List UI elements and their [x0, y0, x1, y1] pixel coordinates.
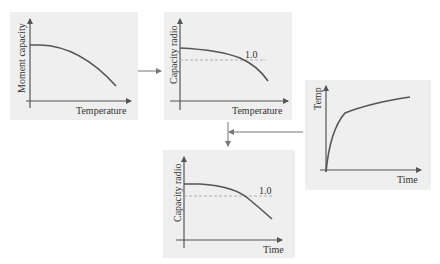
panel4-xlabel: Time: [263, 245, 284, 255]
panel4-reference-label: 1.0: [259, 186, 272, 196]
panel4-axes: [176, 157, 282, 248]
panel3-axes: [320, 86, 421, 172]
panel2-axes: [170, 19, 288, 110]
panel3-ylabel: Temp: [313, 87, 323, 110]
panel1-curve: [30, 45, 116, 86]
panel1-axes: [26, 19, 131, 108]
panel3-xlabel: Time: [397, 175, 418, 185]
panel1-ylabel: Moment capacity: [17, 23, 27, 93]
panel2-xlabel: Temperature: [232, 106, 282, 116]
panel3-curve: [326, 97, 410, 172]
diagram-graphics: [0, 0, 440, 264]
panel2-ylabel: Capacity radio: [169, 25, 179, 84]
panel4-ylabel: Capacity radio: [173, 163, 183, 222]
panel2-reference-label: 1.0: [245, 50, 258, 60]
panel1-xlabel: Temperature: [76, 106, 126, 116]
